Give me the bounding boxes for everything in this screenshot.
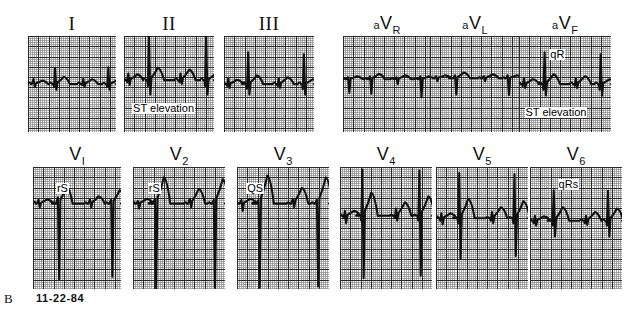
ecg-waveform-trace [224, 36, 314, 132]
lead-label-main: V [274, 144, 287, 164]
rs-label: rS [56, 183, 69, 194]
ecg-strip-v2: rS [133, 167, 225, 289]
lead-panel-v1: VI rS [33, 145, 121, 289]
lead-panel-ii: II ST elevation [124, 14, 214, 132]
st-elevation-label: ST elevation [525, 107, 588, 118]
qr-label: qR [549, 49, 565, 60]
lead-panel-avr: aVR [343, 14, 431, 132]
ecg-strip-iii [224, 36, 314, 132]
ecg-strip-avf: qRST elevation [519, 36, 611, 132]
lead-label-subscript: R [393, 24, 401, 36]
ecg-strip-v4 [340, 167, 432, 289]
lead-label-subscript: 6 [579, 155, 585, 167]
lead-label-main: V [469, 13, 482, 33]
lead-label-prefix: a [552, 19, 559, 31]
lead-panel-avf: aVF qRST elevation [519, 14, 611, 132]
lead-label-prefix: a [462, 19, 469, 31]
ecg-waveform-trace [33, 167, 121, 289]
lead-label-main: V [380, 13, 393, 33]
rs-label: rS [148, 183, 161, 194]
ecg-strip-avl [430, 36, 520, 132]
lead-panel-v2: V2 rS [133, 145, 225, 289]
ecg-strip-avr [343, 36, 431, 132]
lead-label-main: V [170, 144, 183, 164]
ecg-strip-i [28, 36, 116, 132]
qs-label: QS [246, 183, 264, 194]
ecg-strip-ii: ST elevation [124, 36, 214, 132]
lead-panel-avl: aVL [430, 14, 520, 132]
qrs-label: qRs [558, 179, 580, 190]
lead-panel-i: I [28, 14, 116, 132]
lead-label-subscript: I [82, 155, 85, 167]
ecg-strip-v1: rS [33, 167, 121, 289]
lead-panel-iii: III [224, 14, 314, 132]
lead-label-subscript: 4 [389, 155, 395, 167]
lead-label-main: III [259, 13, 279, 34]
lead-panel-v6: V6 qRs [530, 145, 622, 289]
ecg-waveform-trace [430, 36, 520, 132]
lead-label-main: V [559, 13, 572, 33]
lead-label-subscript: F [571, 24, 578, 36]
lead-panel-v5: V5 [436, 145, 528, 289]
lead-label-i: I [28, 14, 116, 33]
lead-label-ii: II [124, 14, 214, 33]
ecg-strip-v3: QS [237, 167, 329, 289]
ecg-waveform-trace [343, 36, 431, 132]
lead-label-main: V [473, 144, 486, 164]
lead-label-subscript: 2 [182, 155, 188, 167]
ecg-strip-v6: qRs [530, 167, 622, 289]
ecg-figure: I II ST elevationIII aVR aVL [0, 0, 631, 316]
ecg-waveform-trace [340, 167, 432, 289]
lead-label-subscript: L [482, 24, 488, 36]
lead-panel-v4: V4 [340, 145, 432, 289]
lead-label-main: II [162, 13, 176, 34]
lead-label-subscript: 5 [485, 155, 491, 167]
ecg-waveform-trace [124, 36, 214, 132]
lead-label-main: I [69, 13, 76, 34]
ecg-waveform-trace [436, 167, 528, 289]
lead-label-main: V [567, 144, 580, 164]
lead-label-main: V [69, 144, 82, 164]
lead-label-main: V [377, 144, 390, 164]
st-elevation-label: ST elevation [132, 103, 195, 114]
panel-letter: B [4, 292, 13, 305]
ecg-waveform-trace [28, 36, 116, 132]
lead-label-iii: III [224, 14, 314, 33]
lead-label-subscript: 3 [286, 155, 292, 167]
ecg-strip-v5 [436, 167, 528, 289]
lead-panel-v3: V3 QS [237, 145, 329, 289]
recording-date: 11-22-84 [36, 293, 84, 304]
